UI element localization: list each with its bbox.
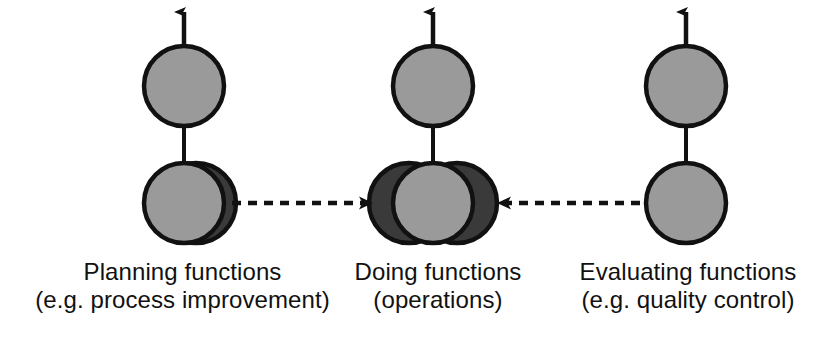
label-doing-line1: Doing functions	[333, 258, 543, 286]
evaluating-bottom-node[interactable]	[646, 163, 726, 243]
column-evaluating	[646, 12, 726, 243]
label-evaluating-line2: (e.g. quality control)	[552, 286, 824, 314]
diagram-canvas: Planning functions (e.g. process improve…	[0, 0, 828, 342]
label-planning: Planning functions (e.g. process improve…	[10, 258, 355, 315]
label-doing-line2: (operations)	[333, 286, 543, 314]
doing-top-node[interactable]	[393, 46, 473, 126]
planning-bottom-node[interactable]	[144, 163, 236, 243]
label-doing: Doing functions (operations)	[333, 258, 543, 315]
evaluating-top-node[interactable]	[646, 46, 726, 126]
label-evaluating: Evaluating functions (e.g. quality contr…	[552, 258, 824, 315]
label-evaluating-line1: Evaluating functions	[552, 258, 824, 286]
planning-top-node[interactable]	[144, 46, 224, 126]
column-planning	[144, 12, 236, 243]
label-planning-line1: Planning functions	[10, 258, 355, 286]
planning-bottom-node-front	[144, 163, 224, 243]
doing-bottom-node[interactable]	[369, 163, 497, 243]
label-planning-line2: (e.g. process improvement)	[10, 286, 355, 314]
doing-bottom-node-front	[393, 163, 473, 243]
column-doing	[369, 12, 497, 243]
